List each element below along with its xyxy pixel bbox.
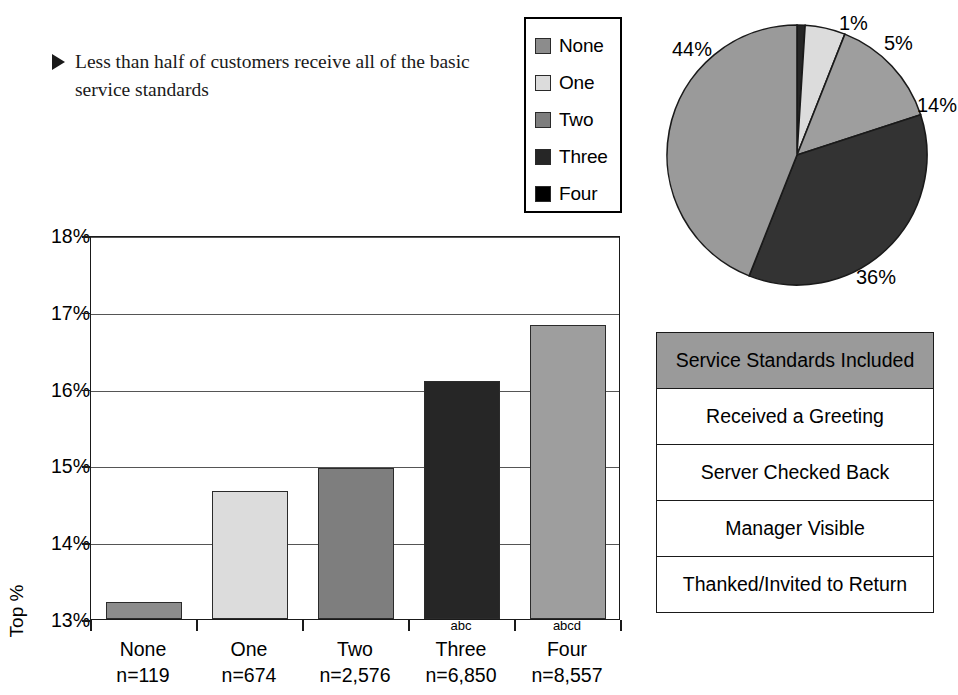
- legend-label-three: Three: [559, 146, 608, 168]
- significance-mark: [302, 619, 408, 633]
- pie-slice-label: 36%: [856, 266, 896, 289]
- x-axis-category: Onen=674: [196, 640, 302, 688]
- x-axis-tick-mark: [620, 620, 622, 631]
- legend-item-two: Two: [535, 101, 620, 138]
- y-axis-tick-label: 18%: [20, 225, 90, 248]
- legend-label-one: One: [559, 72, 594, 94]
- pie-chart: 1%5%14%36%44%: [660, 6, 958, 306]
- bar: [424, 381, 500, 619]
- pie-slice-label: 14%: [917, 94, 957, 117]
- x-axis-category: Twon=2,576: [302, 640, 408, 688]
- bar: [106, 602, 182, 619]
- legend-label-four: Four: [559, 183, 597, 205]
- legend-item-three: Three: [535, 138, 620, 175]
- bar: [318, 468, 394, 619]
- significance-mark: abcd: [514, 619, 620, 633]
- significance-mark: abc: [408, 619, 514, 633]
- category-sample-size: n=2,576: [302, 663, 408, 688]
- legend-swatch-three: [535, 149, 551, 165]
- category-name: Two: [302, 637, 408, 662]
- category-sample-size: n=119: [90, 663, 196, 688]
- category-sample-size: n=6,850: [408, 663, 514, 688]
- bar-chart: Top % 13%14%15%16%17%18% Nonen=119 Onen=…: [0, 225, 660, 695]
- category-sample-size: n=674: [196, 663, 302, 688]
- pie-slices: [667, 25, 927, 285]
- category-name: One: [196, 637, 302, 662]
- legend-swatch-one: [535, 75, 551, 91]
- service-standards-table: Service Standards Included Received a Gr…: [656, 332, 934, 613]
- y-axis-tick-label: 17%: [20, 302, 90, 325]
- triangle-right-icon: [52, 54, 65, 70]
- y-axis-tick-label: 15%: [20, 455, 90, 478]
- table-row: Server Checked Back: [657, 445, 933, 501]
- x-axis-category: abcThreen=6,850: [408, 640, 514, 688]
- bar: [212, 491, 288, 619]
- legend-swatch-four: [535, 186, 551, 202]
- category-name: None: [90, 637, 196, 662]
- table-row: Manager Visible: [657, 501, 933, 557]
- pie-slice-label: 44%: [672, 38, 712, 61]
- pie-slice-label: 1%: [839, 12, 868, 35]
- legend-label-none: None: [559, 35, 604, 57]
- legend-swatch-two: [535, 112, 551, 128]
- gridline: [91, 314, 619, 315]
- bar: [530, 325, 606, 619]
- category-name: Three: [408, 637, 514, 662]
- y-axis-tick-label: 14%: [20, 532, 90, 555]
- pie-slice-label: 5%: [884, 32, 913, 55]
- significance-mark: [196, 619, 302, 633]
- legend-label-two: Two: [559, 109, 593, 131]
- y-axis-tick-label: 16%: [20, 379, 90, 402]
- bar-plot-area: [90, 236, 620, 620]
- category-name: Four: [514, 637, 620, 662]
- callout-text: Less than half of customers receive all …: [75, 48, 492, 105]
- legend-item-none: None: [535, 27, 620, 64]
- chart-legend: None One Two Three Four: [524, 17, 622, 213]
- x-axis-category: Nonen=119: [90, 640, 196, 688]
- y-axis-tick-label: 13%: [20, 609, 90, 632]
- x-axis-category: abcdFourn=8,557: [514, 640, 620, 688]
- legend-swatch-none: [535, 38, 551, 54]
- callout-note: Less than half of customers receive all …: [52, 48, 492, 105]
- table-row: Thanked/Invited to Return: [657, 557, 933, 613]
- gridline: [91, 237, 619, 238]
- table-row: Received a Greeting: [657, 389, 933, 445]
- significance-mark: [90, 619, 196, 633]
- category-sample-size: n=8,557: [514, 663, 620, 688]
- legend-item-one: One: [535, 64, 620, 101]
- legend-item-four: Four: [535, 175, 620, 212]
- table-header: Service Standards Included: [657, 333, 933, 389]
